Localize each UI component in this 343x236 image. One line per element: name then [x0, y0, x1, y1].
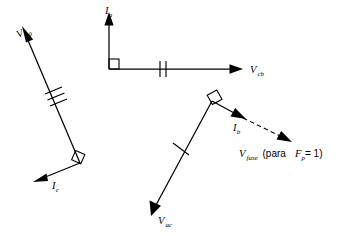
v-ac-label: V ac — [158, 215, 173, 229]
i-a-label-subscript: a — [109, 11, 113, 19]
phasor-diagram-svg: V ba I c — [0, 0, 343, 236]
v-fase-paren-close: = 1) — [305, 148, 323, 159]
i-b-label-subscript: b — [237, 128, 241, 136]
i-c-label-subscript: c — [56, 186, 60, 194]
phasor-diagram-canvas: V ba I c — [0, 0, 343, 236]
v-ac-label-subscript: ac — [166, 221, 174, 229]
v-ba-vector-line — [27, 38, 80, 163]
v-cb-label: V cb — [250, 64, 265, 78]
i-b-vector-line — [212, 101, 236, 114]
v-cb-label-subscript: cb — [258, 70, 265, 78]
right-angle-marker-a-cb — [109, 59, 119, 69]
v-fase-reference-line — [243, 118, 282, 137]
v-fase-label-subscript: fase — [247, 154, 258, 162]
i-a-label: I a — [104, 5, 113, 19]
i-c-label: I c — [51, 180, 60, 194]
group-ac-b: I b V ac V fase (para F p = 1) — [150, 90, 323, 229]
v-fase-paren-open: (para — [263, 148, 287, 159]
i-c-vector-line — [43, 163, 80, 178]
i-c-arrow-head — [33, 173, 48, 182]
v-ba-tick-marks — [45, 87, 67, 106]
group-ba-c: V ba I c — [15, 24, 85, 193]
i-b-arrow-head — [231, 108, 247, 119]
v-ac-vector-line — [156, 101, 212, 205]
group-a-cb: I a V cb — [104, 5, 265, 78]
i-b-label: I b — [232, 122, 241, 136]
v-ac-arrow-head — [150, 200, 162, 216]
v-ba-label-subscript: ba — [24, 29, 34, 39]
v-fase-label: V fase (para F p = 1) — [239, 148, 323, 162]
v-fase-arrow-head — [277, 131, 293, 142]
v-cb-arrow-head — [230, 64, 244, 74]
